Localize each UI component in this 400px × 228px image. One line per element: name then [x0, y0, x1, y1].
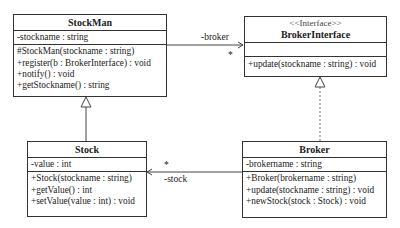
- class-name: <<Interface>> BrokerInterface: [245, 17, 386, 42]
- operations-section: +Stock(stockname : string) +getValue() :…: [28, 171, 146, 208]
- inheritance-triangle-icon: [81, 97, 91, 107]
- attributes-section: [245, 42, 386, 56]
- operation: #StockMan(stockname : string): [17, 46, 163, 57]
- attribute: -value : int: [31, 159, 143, 170]
- attributes-section: -stockname : string: [14, 30, 166, 44]
- class-broker[interactable]: Broker -brokername : string +Broker(brok…: [242, 141, 387, 218]
- operation: +getStockname() : string: [17, 80, 163, 91]
- role-label-broker: -broker: [201, 32, 229, 43]
- operation: +newStock(stock : Stock) : void: [246, 196, 383, 207]
- operation: +setValue(value : int) : void: [31, 196, 143, 207]
- attribute: -brokername : string: [246, 159, 383, 170]
- class-name: Stock: [28, 142, 146, 157]
- stereotype: <<Interface>>: [245, 18, 386, 29]
- operation: +Stock(stockname : string): [31, 173, 143, 184]
- operation: +getValue() : int: [31, 185, 143, 196]
- attribute: -stockname : string: [17, 32, 163, 43]
- class-brokerinterface[interactable]: <<Interface>> BrokerInterface +update(st…: [244, 16, 387, 77]
- operations-section: +update(stockname : string) : void: [245, 56, 386, 71]
- operation: +register(b : BrokerInterface) : void: [17, 58, 163, 69]
- attributes-section: -brokername : string: [243, 157, 386, 171]
- operations-section: +Broker(brokername : string) +update(sto…: [243, 171, 386, 208]
- class-name: Broker: [243, 142, 386, 157]
- attributes-section: -value : int: [28, 157, 146, 171]
- operation: +update(stockname : string) : void: [248, 59, 383, 70]
- realization-triangle-icon: [315, 77, 325, 87]
- multiplicity-label: *: [228, 50, 233, 61]
- class-stockman[interactable]: StockMan -stockname : string #StockMan(s…: [13, 14, 167, 97]
- operations-section: #StockMan(stockname : string) +register(…: [14, 44, 166, 92]
- operation: +notify() : void: [17, 69, 163, 80]
- operation: +Broker(brokername : string): [246, 173, 383, 184]
- operation: +update(stockname : string) : void: [246, 185, 383, 196]
- multiplicity-label: *: [164, 160, 169, 171]
- class-stock[interactable]: Stock -value : int +Stock(stockname : st…: [27, 141, 147, 217]
- role-label-stock: -stock: [164, 174, 187, 185]
- class-name: StockMan: [14, 15, 166, 30]
